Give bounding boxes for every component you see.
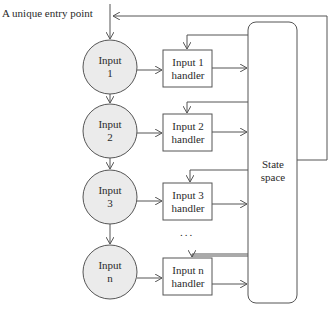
input-n-label-line1: Input <box>83 259 137 272</box>
handler-3-line1: Input 3 <box>163 189 213 202</box>
input-n-label-line2: n <box>83 272 137 285</box>
input-3-label-line1: Input <box>83 184 137 197</box>
handler-1-line1: Input 1 <box>163 56 213 69</box>
handler-2-line1: Input 2 <box>163 120 213 133</box>
input-2-label: Input 2 <box>83 118 137 144</box>
state-space-label: State space <box>248 158 298 184</box>
input-1-label-line2: 1 <box>83 67 137 80</box>
input-2-label-line2: 2 <box>83 131 137 144</box>
input-1-label: Input 1 <box>83 54 137 80</box>
handler-n-line2: handler <box>163 277 213 290</box>
entry-point-label: A unique entry point <box>2 7 93 19</box>
input-2-handler-label: Input 2 handler <box>163 120 213 146</box>
input-2-label-line1: Input <box>83 118 137 131</box>
input-n-handler-label: Input n handler <box>163 264 213 290</box>
input-1-handler-label: Input 1 handler <box>163 56 213 82</box>
state-space-line2: space <box>248 171 298 184</box>
state-space-line1: State <box>248 158 298 171</box>
input-3-label-line2: 3 <box>83 197 137 210</box>
ellipsis: ... <box>180 226 194 238</box>
input-n-label: Input n <box>83 259 137 285</box>
input-1-label-line1: Input <box>83 54 137 67</box>
input-3-handler-label: Input 3 handler <box>163 189 213 215</box>
handler-3-line2: handler <box>163 202 213 215</box>
input-3-label: Input 3 <box>83 184 137 210</box>
handler-1-line2: handler <box>163 69 213 82</box>
handler-n-line1: Input n <box>163 264 213 277</box>
handler-2-line2: handler <box>163 133 213 146</box>
